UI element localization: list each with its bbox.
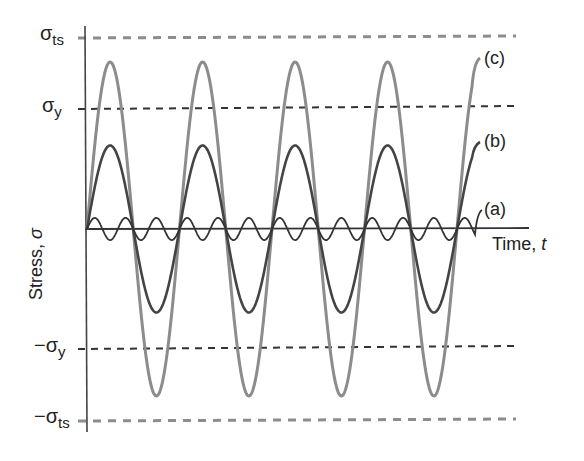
label-curve-c: (c) [484, 48, 505, 69]
curve-b [87, 142, 480, 313]
sigma-ts-line [78, 36, 516, 38]
label-curve-b: (b) [484, 131, 506, 152]
label-neg-sigma-y: −σy [34, 334, 66, 360]
label-sigma-y: σy [42, 94, 62, 120]
label-curve-a: (a) [484, 199, 506, 220]
label-neg-sigma-ts: −σts [34, 405, 70, 431]
curve-a [87, 210, 482, 240]
sigma-y-line [78, 106, 516, 109]
x-axis-label: Time, t [492, 234, 546, 255]
y-axis-label: Stress, σ [26, 228, 47, 300]
x-axis [85, 228, 529, 229]
label-sigma-ts: σts [40, 22, 64, 48]
stress-time-diagram [0, 0, 584, 461]
neg-sigma-ts-line [78, 419, 516, 421]
